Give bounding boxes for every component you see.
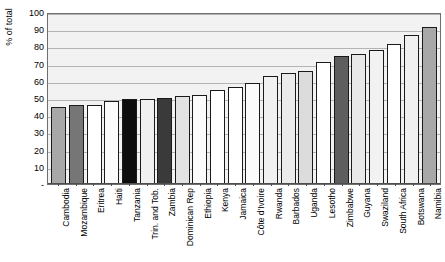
- bar-slot: [156, 14, 174, 184]
- bar-slot: [226, 14, 244, 184]
- x-tick-slot: South Africa: [386, 186, 404, 262]
- bar-slot: [297, 14, 315, 184]
- bar-slot: [279, 14, 297, 184]
- y-tick-label: 50: [34, 95, 44, 104]
- bar[interactable]: [104, 101, 119, 184]
- bar-slot: [315, 14, 333, 184]
- bar-slot: [191, 14, 209, 184]
- bar[interactable]: [245, 83, 260, 184]
- x-tick-slot: Botswana: [404, 186, 422, 262]
- bar[interactable]: [298, 71, 313, 184]
- bar[interactable]: [228, 87, 243, 184]
- x-tick-slot: Jamaica: [226, 186, 244, 262]
- bar-slot: [244, 14, 262, 184]
- x-tick-slot: Côte d'Ivoire: [244, 186, 262, 262]
- bar[interactable]: [316, 62, 331, 184]
- x-tick-slot: Ethiopia: [191, 186, 209, 262]
- x-tick-mark: [235, 183, 236, 186]
- x-tick-slot: Uganda: [297, 186, 315, 262]
- bar[interactable]: [122, 99, 137, 184]
- x-tick-mark: [306, 183, 307, 186]
- x-tick-mark: [182, 183, 183, 186]
- y-tick-label: 90: [34, 26, 44, 35]
- x-axis-tick-labels: CambodiaMozambiqueEritreaHaitiTanzaniaTr…: [47, 186, 441, 262]
- y-tick-label: 30: [34, 129, 44, 138]
- bar[interactable]: [140, 99, 155, 184]
- x-tick-slot: Rwanda: [262, 186, 280, 262]
- y-axis-title: % of total: [4, 0, 18, 72]
- bar-slot: [68, 14, 86, 184]
- x-tick-mark: [200, 183, 201, 186]
- y-axis-title-text: % of total: [4, 0, 14, 72]
- bar[interactable]: [157, 98, 172, 185]
- bar-slot: [173, 14, 191, 184]
- bar-slot: [209, 14, 227, 184]
- x-tick-slot: Trin. and Tob.: [138, 186, 156, 262]
- bar[interactable]: [263, 76, 278, 184]
- x-tick-slot: Mozambique: [67, 186, 85, 262]
- bar[interactable]: [281, 73, 296, 184]
- bar-slot: [368, 14, 386, 184]
- y-tick-label: 20: [34, 147, 44, 156]
- bar-slot: [50, 14, 68, 184]
- x-tick-mark: [395, 183, 396, 186]
- x-tick-mark: [324, 183, 325, 186]
- x-tick-slot: Zimbabwe: [333, 186, 351, 262]
- x-tick-slot: Tanzania: [120, 186, 138, 262]
- bar-slot: [403, 14, 421, 184]
- x-tick-slot: Swaziland: [368, 186, 386, 262]
- bar-slot: [420, 14, 438, 184]
- x-tick-mark: [413, 183, 414, 186]
- bar[interactable]: [369, 50, 384, 184]
- x-tick-mark: [342, 183, 343, 186]
- x-tick-mark: [93, 183, 94, 186]
- bar-slot: [350, 14, 368, 184]
- x-tick-mark: [111, 183, 112, 186]
- bar-slot: [138, 14, 156, 184]
- bar-slot: [103, 14, 121, 184]
- bar-slot: [385, 14, 403, 184]
- x-tick-mark: [58, 183, 59, 186]
- bar[interactable]: [69, 105, 84, 184]
- bar[interactable]: [351, 54, 366, 184]
- x-tick-slot: Eritrea: [84, 186, 102, 262]
- bar[interactable]: [422, 27, 437, 184]
- x-tick-slot: Kenya: [209, 186, 227, 262]
- x-tick-mark: [147, 183, 148, 186]
- bar[interactable]: [175, 96, 190, 184]
- bar[interactable]: [334, 56, 349, 184]
- bar-slot: [332, 14, 350, 184]
- bar-slot: [85, 14, 103, 184]
- x-axis-baseline: [48, 183, 440, 184]
- x-tick-mark: [253, 183, 254, 186]
- y-tick-label: 80: [34, 43, 44, 52]
- x-tick-slot: Dominican Rep: [173, 186, 191, 262]
- bar[interactable]: [51, 107, 66, 184]
- bar[interactable]: [210, 90, 225, 184]
- x-tick-slot: Zambia: [155, 186, 173, 262]
- x-tick-mark: [377, 183, 378, 186]
- x-tick-slot: Cambodia: [49, 186, 67, 262]
- x-tick-mark: [271, 183, 272, 186]
- plot-area: [47, 13, 441, 185]
- bar[interactable]: [404, 35, 419, 184]
- bar[interactable]: [387, 44, 402, 185]
- bar[interactable]: [87, 105, 102, 184]
- y-tick-label: 100: [29, 9, 44, 18]
- y-tick-label: 60: [34, 78, 44, 87]
- x-tick-mark: [430, 183, 431, 186]
- x-tick-mark: [76, 183, 77, 186]
- y-tick-label: -: [41, 181, 44, 190]
- bar-slot: [262, 14, 280, 184]
- x-tick-mark: [217, 183, 218, 186]
- bar[interactable]: [192, 95, 207, 184]
- x-tick-mark: [288, 183, 289, 186]
- x-tick-mark: [359, 183, 360, 186]
- x-tick-slot: Haiti: [102, 186, 120, 262]
- x-tick-label: Namibia: [434, 188, 443, 219]
- bar-chart: % of total -102030405060708090100 Cambod…: [0, 0, 445, 262]
- x-tick-mark: [129, 183, 130, 186]
- y-tick-label: 10: [34, 164, 44, 173]
- y-axis-tick-labels: -102030405060708090100: [18, 8, 44, 190]
- x-tick-mark: [164, 183, 165, 186]
